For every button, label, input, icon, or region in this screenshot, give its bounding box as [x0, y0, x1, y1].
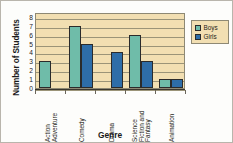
bar-boys [129, 35, 141, 88]
bar-girls [141, 61, 153, 88]
y-tick-4: 4 [21, 50, 33, 56]
legend-swatch-girls-icon [195, 34, 201, 40]
legend-swatch-boys-icon [195, 25, 201, 31]
x-tick [125, 90, 126, 94]
legend-item-boys: Boys [195, 24, 226, 31]
x-tick [95, 90, 96, 94]
legend-label-boys: Boys [204, 24, 218, 31]
bar-boys [159, 79, 171, 88]
bar-girls [111, 52, 123, 88]
chart-legend: Boys Girls [191, 20, 229, 44]
legend-label-girls: Girls [204, 33, 217, 40]
x-tick [35, 90, 36, 94]
bar-groups [36, 14, 185, 88]
legend-item-girls: Girls [195, 33, 226, 40]
x-tick [155, 90, 156, 94]
y-tick-1: 1 [21, 77, 33, 83]
gridline-0 [36, 90, 185, 91]
bar-boys [69, 26, 81, 88]
bar-group [36, 14, 66, 88]
x-axis-baseline [35, 89, 185, 90]
y-tick-6: 6 [21, 33, 33, 39]
plot-right-border [184, 13, 185, 90]
y-tick-5: 5 [21, 42, 33, 48]
bar-group [96, 14, 126, 88]
chart-figure: Number of Students 876543210 ActionAdven… [0, 0, 233, 143]
x-tick [185, 90, 186, 94]
x-tick [65, 90, 66, 94]
bar-girls [171, 79, 183, 88]
y-tick-3: 3 [21, 59, 33, 65]
plot-area [35, 13, 185, 89]
bar-girls [81, 44, 93, 88]
y-tick-2: 2 [21, 68, 33, 74]
x-axis-title: Genre [35, 130, 185, 140]
bar-group [156, 14, 186, 88]
y-tick-8: 8 [21, 15, 33, 21]
bar-group [66, 14, 96, 88]
bar-group [126, 14, 156, 88]
y-tick-0: 0 [21, 86, 33, 92]
y-axis-tick-labels: 876543210 [19, 13, 33, 90]
bar-boys [39, 61, 51, 88]
y-tick-7: 7 [21, 24, 33, 30]
